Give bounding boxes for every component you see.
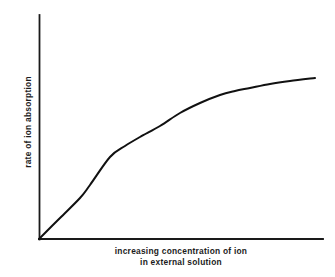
x-axis-label-line-1: increasing concentration of ion xyxy=(39,246,323,257)
x-axis-label-line-2: in external solution xyxy=(39,257,323,268)
plot-area xyxy=(0,0,335,277)
y-axis-label: rate of ion absorption xyxy=(23,27,34,217)
chart-figure: rate of ion absorption increasing concen… xyxy=(0,0,335,277)
absorption-saturation-curve xyxy=(39,78,315,239)
x-axis-label: increasing concentration of ion in exter… xyxy=(39,246,323,267)
